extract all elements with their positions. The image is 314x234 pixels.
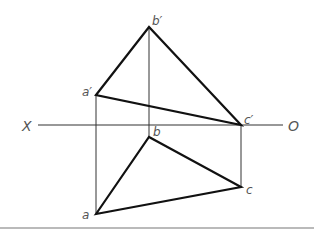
label-a: a xyxy=(82,208,89,222)
label-c: c xyxy=(246,183,253,197)
label-c-prime: c′ xyxy=(244,113,254,127)
top-view-triangle xyxy=(96,137,241,214)
label-a-prime: a′ xyxy=(82,85,92,99)
label-b: b xyxy=(153,125,161,139)
front-view-triangle xyxy=(96,27,241,125)
projection-diagram: X O a′ b′ c′ a b c xyxy=(0,0,314,234)
axis-label-o: O xyxy=(288,118,299,134)
label-b-prime: b′ xyxy=(152,14,163,28)
axis-label-x: X xyxy=(21,118,32,134)
